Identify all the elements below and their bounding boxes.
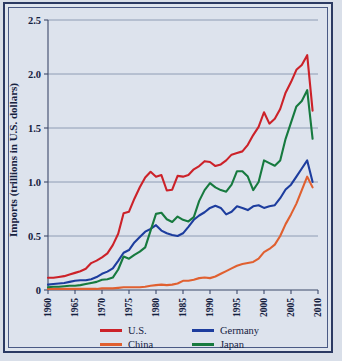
chart-canvas: 00.51.01.52.02.5 19601965197019751980198… (0, 0, 342, 361)
x-tick-label: 1975 (124, 298, 134, 317)
x-tick-label: 1965 (70, 298, 80, 317)
axis-lines (48, 20, 318, 290)
legend-label-china: China (128, 339, 153, 350)
y-axis-label: Imports (trillions in U.S. dollars) (7, 83, 20, 237)
y-axis-ticks: 00.51.01.52.02.5 (28, 15, 48, 296)
y-tick-label: 2.0 (28, 69, 41, 80)
x-tick-label: 1970 (97, 298, 107, 317)
y-tick-label: 1.5 (28, 123, 41, 134)
x-tick-label: 2005 (286, 298, 296, 317)
series-line-china (48, 177, 313, 289)
x-axis-ticks: 1960196519701975198019851990199520002005… (43, 290, 323, 317)
legend-label-japan: Japan (220, 339, 245, 350)
x-tick-label: 2010 (313, 298, 323, 317)
x-tick-label: 1980 (151, 298, 161, 317)
gridlines (48, 20, 318, 236)
x-tick-label: 1990 (205, 298, 215, 317)
y-tick-label: 1.0 (28, 177, 41, 188)
x-tick-label: 1985 (178, 298, 188, 317)
x-tick-label: 1960 (43, 298, 53, 317)
y-tick-label: 2.5 (28, 15, 41, 26)
series-lines (48, 55, 313, 289)
legend-label-us: U.S. (128, 325, 147, 336)
x-tick-label: 1995 (232, 298, 242, 317)
y-tick-label: 0.5 (28, 231, 41, 242)
imports-line-chart: 00.51.01.52.02.5 19601965197019751980198… (0, 0, 342, 361)
x-tick-label: 2000 (259, 298, 269, 317)
y-tick-label: 0 (36, 285, 41, 296)
series-line-us (48, 55, 313, 278)
chart-legend: U.S.GermanyChinaJapan (100, 325, 260, 350)
legend-label-germany: Germany (220, 325, 260, 336)
